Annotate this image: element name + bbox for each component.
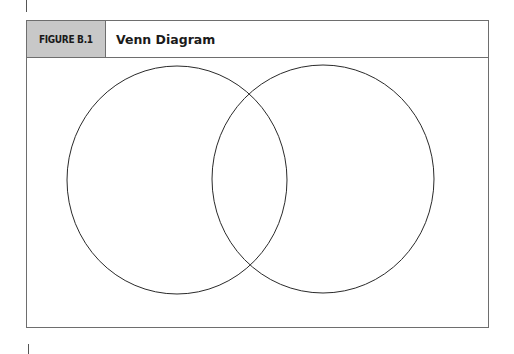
venn-circle-left [67, 66, 287, 294]
venn-diagram [0, 0, 514, 354]
venn-circle-right [212, 65, 434, 293]
